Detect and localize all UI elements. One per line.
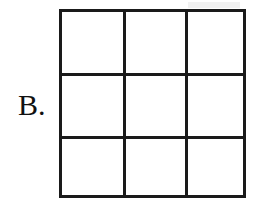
grid-cell-r3c2[interactable] [126,139,185,195]
grid-cell-r3c1[interactable] [62,139,123,195]
grid-cell-r1c1[interactable] [62,12,123,73]
grid-cell-r2c2[interactable] [126,76,185,136]
grid-inner [62,12,243,195]
grid-3x3[interactable] [59,9,246,198]
grid-cell-r1c2[interactable] [126,12,185,73]
grid-cell-r1c3[interactable] [188,12,243,73]
grid-cell-r2c1[interactable] [62,76,123,136]
figure-label: B. [18,88,58,122]
grid-cell-r2c3[interactable] [188,76,243,136]
scan-artifact-smudge [188,2,240,8]
figure-container: B. [0,0,257,207]
grid-cell-r3c3[interactable] [188,139,243,195]
